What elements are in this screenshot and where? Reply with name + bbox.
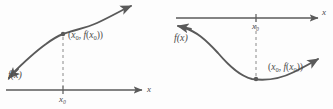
left-x-axis-label: x	[147, 85, 151, 94]
left-point-label: (x0, f(x0))	[68, 31, 103, 41]
left-marked-point	[61, 32, 65, 36]
left-panel-graph	[6, 6, 142, 94]
left-x0-tick-label: x₀	[59, 95, 66, 104]
right-point-label: (x0, f(x0))	[268, 63, 303, 73]
figure-two-function-graphs: (x0, f(x0)) f(x) x₀ x (x0, f(x0)) f(x) x…	[0, 0, 333, 109]
right-x-axis-label: x	[322, 8, 326, 17]
right-marked-point	[254, 77, 258, 81]
left-function-curve	[10, 6, 131, 76]
right-x0-tick-label: x₀	[252, 22, 259, 31]
left-function-label: f(x)	[8, 70, 22, 80]
figure-canvas	[0, 0, 333, 109]
right-function-label: f(x)	[174, 33, 188, 43]
